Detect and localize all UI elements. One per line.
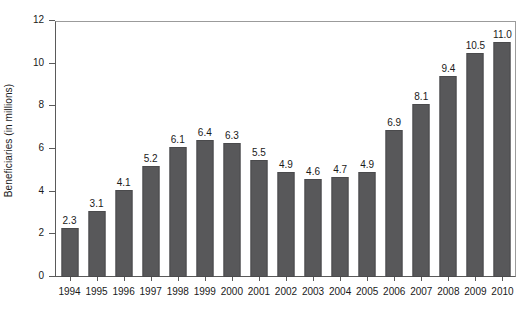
x-axis-tick-label: 2004 — [329, 286, 351, 297]
bar[interactable] — [277, 172, 294, 277]
x-axis-tick-mark — [394, 277, 395, 281]
x-axis-tick-group: 1994 — [56, 277, 83, 311]
x-axis-tick-group: 2009 — [462, 277, 489, 311]
x-axis-tick-group: 2008 — [435, 277, 462, 311]
x-axis-tick-group: 1999 — [191, 277, 218, 311]
x-axis-tick-mark — [367, 277, 368, 281]
bar[interactable] — [61, 228, 78, 277]
x-axis-tick-label: 1998 — [167, 286, 189, 297]
x-axis-tick-mark — [178, 277, 179, 281]
x-axis-tick-mark — [151, 277, 152, 281]
bar-value-label: 4.7 — [333, 164, 347, 175]
x-axis-tick-group: 1995 — [83, 277, 110, 311]
bar-group[interactable]: 5.5 — [245, 21, 272, 277]
bar-group[interactable]: 6.9 — [381, 21, 408, 277]
bars-layer: 2.33.14.15.26.16.46.35.54.94.64.74.96.98… — [56, 21, 516, 277]
x-axis-tick-label: 1997 — [140, 286, 162, 297]
x-axis-tick-group: 2000 — [218, 277, 245, 311]
x-axis-tick-mark — [286, 277, 287, 281]
x-axis-tick-mark — [448, 277, 449, 281]
bar[interactable] — [250, 160, 267, 277]
bar-group[interactable]: 4.9 — [272, 21, 299, 277]
bar[interactable] — [494, 42, 511, 277]
x-axis-tick-group: 2010 — [489, 277, 516, 311]
bar-value-label: 6.9 — [387, 117, 401, 128]
y-axis-tick-label: 8 — [0, 99, 44, 110]
x-axis-tick-group: 2001 — [245, 277, 272, 311]
bar-group[interactable]: 5.2 — [137, 21, 164, 277]
y-axis-tick-label: 2 — [0, 227, 44, 238]
x-axis-tick-label: 2010 — [491, 286, 513, 297]
bar-group[interactable]: 4.1 — [110, 21, 137, 277]
x-axis-tick-group: 2003 — [300, 277, 327, 311]
bar-group[interactable]: 9.4 — [435, 21, 462, 277]
bar-group[interactable]: 6.3 — [218, 21, 245, 277]
bar-value-label: 5.2 — [144, 153, 158, 164]
bar[interactable] — [359, 172, 376, 277]
y-axis-tick-label: 12 — [0, 14, 44, 25]
x-axis-tick-label: 1995 — [85, 286, 107, 297]
bar-group[interactable]: 10.5 — [462, 21, 489, 277]
bar[interactable] — [332, 177, 349, 277]
bar-value-label: 8.1 — [414, 91, 428, 102]
bar-value-label: 2.3 — [63, 215, 77, 226]
bar-group[interactable]: 2.3 — [56, 21, 83, 277]
bar-value-label: 9.4 — [441, 63, 455, 74]
bar-value-label: 6.4 — [198, 127, 212, 138]
x-axis-tick-label: 1999 — [194, 286, 216, 297]
x-axis-tick-label: 1994 — [58, 286, 80, 297]
x-axis-tick-group: 2005 — [354, 277, 381, 311]
bar[interactable] — [142, 166, 159, 277]
x-axis-tick-label: 2003 — [302, 286, 324, 297]
y-axis-tick-label: 6 — [0, 142, 44, 153]
x-axis-tick-label: 2008 — [437, 286, 459, 297]
bar[interactable] — [169, 147, 186, 277]
bar-group[interactable]: 4.7 — [327, 21, 354, 277]
bar[interactable] — [413, 104, 430, 277]
x-axis-tick-group: 2004 — [327, 277, 354, 311]
x-axis-tick-mark — [124, 277, 125, 281]
bar[interactable] — [115, 190, 132, 277]
x-axis-tick-label: 2002 — [275, 286, 297, 297]
bar-value-label: 3.1 — [90, 198, 104, 209]
bar-group[interactable]: 8.1 — [408, 21, 435, 277]
x-axis-tick-group: 2007 — [408, 277, 435, 311]
bar-value-label: 4.9 — [279, 159, 293, 170]
x-axis-tick-label: 2001 — [248, 286, 270, 297]
bar-value-label: 6.3 — [225, 130, 239, 141]
x-axis-tick-label: 2005 — [356, 286, 378, 297]
x-axis-tick-group: 1997 — [137, 277, 164, 311]
bar[interactable] — [196, 140, 213, 277]
bar-group[interactable]: 6.4 — [191, 21, 218, 277]
bar-group[interactable]: 4.6 — [300, 21, 327, 277]
x-axis-tick-mark — [97, 277, 98, 281]
x-axis-tick-group: 2006 — [381, 277, 408, 311]
x-axis-tick-mark — [340, 277, 341, 281]
bar[interactable] — [467, 53, 484, 277]
x-axis-tick-label: 2007 — [410, 286, 432, 297]
x-axis-tick-group: 1998 — [164, 277, 191, 311]
bar[interactable] — [386, 130, 403, 277]
bar[interactable] — [305, 179, 322, 277]
bar-group[interactable]: 6.1 — [164, 21, 191, 277]
bar-group[interactable]: 11.0 — [489, 21, 516, 277]
bar[interactable] — [88, 211, 105, 277]
x-axis-tick-label: 2006 — [383, 286, 405, 297]
bar-chart: Beneficiaries (in millions) 024681012 2.… — [0, 0, 530, 312]
bar-value-label: 5.5 — [252, 147, 266, 158]
bar-group[interactable]: 3.1 — [83, 21, 110, 277]
bar-group[interactable]: 4.9 — [354, 21, 381, 277]
x-axis-tick-label: 2000 — [221, 286, 243, 297]
x-axis-tick-group: 1996 — [110, 277, 137, 311]
y-axis-tick-label: 0 — [0, 270, 44, 281]
bar-value-label: 4.6 — [306, 166, 320, 177]
x-axis-tick-mark — [259, 277, 260, 281]
x-axis-tick-mark — [205, 277, 206, 281]
y-axis-tick-label: 4 — [0, 185, 44, 196]
y-axis-tick-label: 10 — [0, 57, 44, 68]
bar[interactable] — [440, 76, 457, 277]
x-axis-tick-mark — [502, 277, 503, 281]
x-axis-tick-mark — [70, 277, 71, 281]
bar-value-label: 11.0 — [493, 29, 512, 40]
bar[interactable] — [223, 143, 240, 277]
